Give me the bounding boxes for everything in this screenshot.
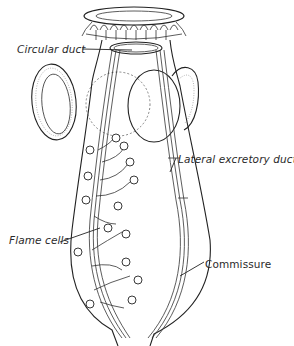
lateral-excretory-duct [148, 50, 188, 338]
excretory-system-diagram: Circular duct Lateral excretory duct Fla… [0, 0, 294, 346]
corona [82, 7, 186, 40]
label-commissure: Commissure [205, 258, 271, 270]
left-lobe [28, 62, 80, 142]
circular-duct [110, 42, 162, 54]
label-circular-duct: Circular duct [17, 43, 86, 55]
flame-cells [74, 134, 142, 308]
label-flame-cells: Flame cells [9, 234, 69, 246]
label-lateral-excretory-duct: Lateral excretory duct [178, 153, 294, 165]
right-lobe [172, 67, 198, 130]
